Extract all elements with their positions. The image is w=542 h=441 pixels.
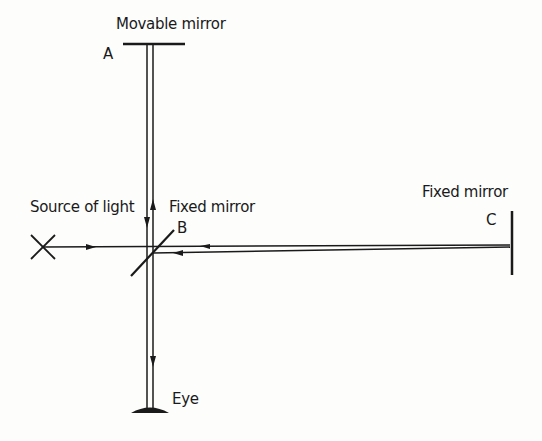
beam-horizontal-top bbox=[43, 245, 510, 247]
point-a-label: A bbox=[103, 45, 113, 63]
arrow-back-left bbox=[173, 250, 183, 256]
point-b-label: B bbox=[177, 219, 187, 237]
eye-icon bbox=[131, 408, 169, 414]
arrow-down-eye bbox=[150, 356, 156, 367]
interferometer-diagram: Movable mirror A Source of light Fixed m… bbox=[0, 0, 542, 441]
eye-label: Eye bbox=[172, 390, 199, 408]
fixed-mirror-b-label: Fixed mirror bbox=[169, 198, 255, 216]
fixed-mirror-c-label: Fixed mirror bbox=[422, 183, 508, 201]
arrow-source-right bbox=[86, 244, 96, 250]
source-of-light-label: Source of light bbox=[30, 198, 134, 216]
movable-mirror-label: Movable mirror bbox=[116, 15, 226, 33]
arrow-up-right bbox=[150, 199, 156, 210]
diagram-lines bbox=[0, 0, 542, 441]
point-c-label: C bbox=[486, 211, 496, 229]
arrow-down-left bbox=[144, 217, 150, 228]
